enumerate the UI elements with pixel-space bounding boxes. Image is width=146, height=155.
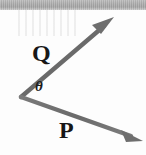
vector-p <box>21 97 143 142</box>
vector-p-arrowhead <box>121 130 143 142</box>
angle-theta-label: θ <box>35 79 43 94</box>
vector-q-label: Q <box>32 41 51 65</box>
vector-diagram-figure: Q P θ <box>0 0 146 155</box>
vector-p-label: P <box>59 118 74 142</box>
vector-p-shaft <box>21 97 131 136</box>
